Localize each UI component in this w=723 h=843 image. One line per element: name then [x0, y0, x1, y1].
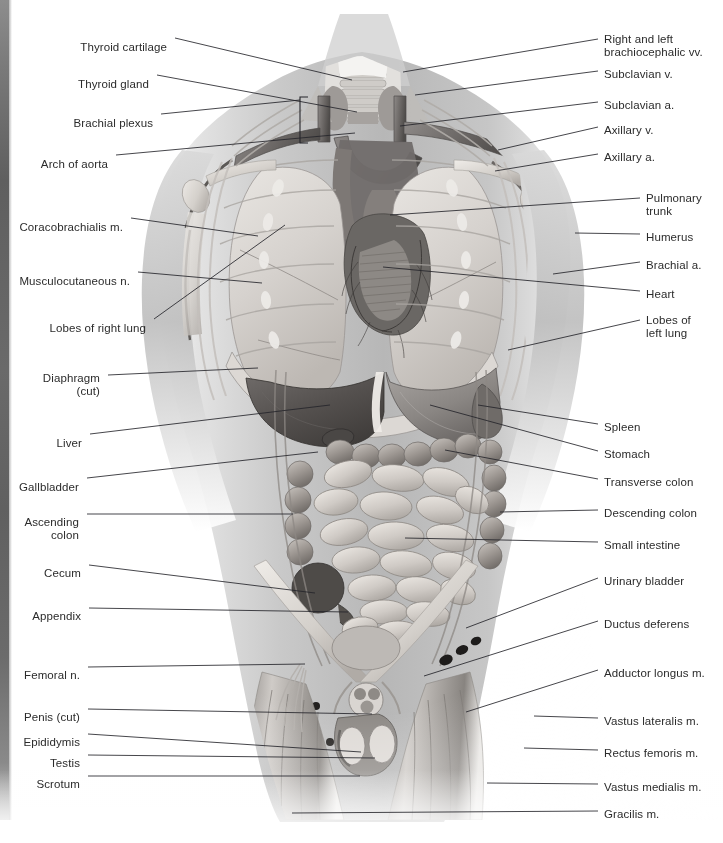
label-brachiocephalic-vv: Right and left brachiocephalic vv. — [604, 33, 703, 59]
label-scrotum: Scrotum — [36, 778, 80, 791]
label-cecum: Cecum — [44, 567, 81, 580]
label-transverse-colon: Transverse colon — [604, 476, 693, 489]
label-thyroid-cartilage: Thyroid cartilage — [80, 41, 167, 54]
label-penis-cut: Penis (cut) — [24, 711, 80, 724]
label-axillary-v: Axillary v. — [604, 124, 653, 137]
label-gracilis-m: Gracilis m. — [604, 808, 659, 821]
label-musculocutaneous-n: Musculocutaneous n. — [19, 275, 130, 288]
label-femoral-n: Femoral n. — [24, 669, 80, 682]
label-descending-colon: Descending colon — [604, 507, 697, 520]
label-vastus-lateralis-m: Vastus lateralis m. — [604, 715, 699, 728]
label-appendix: Appendix — [32, 610, 81, 623]
label-rectus-femoris-m: Rectus femoris m. — [604, 747, 698, 760]
label-coracobrachialis-m: Coracobrachialis m. — [19, 221, 123, 234]
label-diaphragm-cut: Diaphragm (cut) — [43, 372, 100, 398]
label-urinary-bladder: Urinary bladder — [604, 575, 684, 588]
label-heart: Heart — [646, 288, 675, 301]
label-thyroid-gland: Thyroid gland — [78, 78, 149, 91]
label-subclavian-a: Subclavian a. — [604, 99, 674, 112]
label-subclavian-v: Subclavian v. — [604, 68, 673, 81]
label-brachial-plexus: Brachial plexus — [74, 117, 153, 130]
label-brachial-a: Brachial a. — [646, 259, 701, 272]
label-lobes-of-left-lung: Lobes of left lung — [646, 314, 691, 340]
label-pulmonary-trunk: Pulmonary trunk — [646, 192, 702, 218]
label-testis: Testis — [50, 757, 80, 770]
label-vastus-medialis-m: Vastus medialis m. — [604, 781, 701, 794]
label-ascending-colon: Ascending colon — [0, 516, 79, 542]
anatomy-plate: Thyroid cartilageThyroid glandBrachial p… — [0, 0, 723, 843]
label-arch-of-aorta: Arch of aorta — [41, 158, 108, 171]
label-axillary-a: Axillary a. — [604, 151, 655, 164]
label-epididymis: Epididymis — [23, 736, 80, 749]
label-liver: Liver — [57, 437, 82, 450]
label-ductus-deferens: Ductus deferens — [604, 618, 689, 631]
label-small-intestine: Small intestine — [604, 539, 680, 552]
label-spleen: Spleen — [604, 421, 640, 434]
label-adductor-longus-m: Adductor longus m. — [604, 667, 705, 680]
label-humerus: Humerus — [646, 231, 693, 244]
label-stomach: Stomach — [604, 448, 650, 461]
label-gallbladder: Gallbladder — [19, 481, 79, 494]
label-lobes-of-right-lung: Lobes of right lung — [49, 322, 146, 335]
